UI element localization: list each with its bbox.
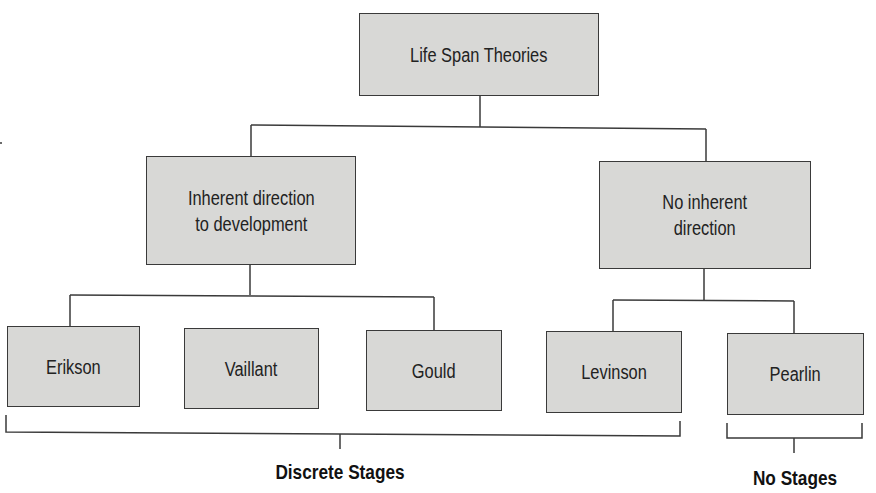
- node-inherent-direction: Inherent direction to development: [146, 156, 356, 265]
- node-inherent-direction-label: Inherent direction to development: [188, 185, 315, 237]
- node-levinson-label: Levinson: [581, 359, 647, 385]
- group-label-no-stages: No Stages: [753, 466, 837, 490]
- node-pearlin: Pearlin: [727, 333, 864, 415]
- node-erikson: Erikson: [7, 326, 140, 407]
- node-vaillant: Vaillant: [184, 328, 319, 409]
- bracket-no-stages: [727, 423, 862, 438]
- node-no-inherent-direction: No inherent direction: [599, 161, 811, 269]
- node-root-life-span-theories: Life Span Theories: [359, 13, 599, 96]
- connector-level1-horizontal: [251, 125, 706, 129]
- node-root-label: Life Span Theories: [410, 42, 547, 68]
- node-levinson: Levinson: [546, 331, 682, 413]
- node-vaillant-label: Vaillant: [225, 356, 278, 382]
- node-gould-label: Gould: [412, 358, 456, 384]
- node-no-inherent-direction-label: No inherent direction: [663, 189, 748, 241]
- bracket-discrete-stages: [6, 415, 680, 436]
- connector-inherent-horizontal: [70, 295, 434, 297]
- node-erikson-label: Erikson: [46, 354, 101, 380]
- diagram-canvas: Life Span Theories Inherent direction to…: [0, 0, 876, 493]
- node-pearlin-label: Pearlin: [770, 361, 821, 387]
- connector-no-inherent-horizontal: [613, 300, 794, 301]
- group-label-discrete-stages: Discrete Stages: [275, 460, 404, 484]
- node-gould: Gould: [366, 330, 502, 411]
